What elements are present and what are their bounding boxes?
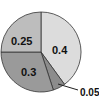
slice-label-0.4: 0.4 [52, 44, 68, 56]
slice-label-0.3: 0.3 [21, 66, 36, 78]
slice-label-0.25: 0.25 [11, 35, 32, 47]
pie-slices [1, 12, 81, 92]
slice-label-0.05: 0.05 [80, 87, 99, 98]
pie-chart: 0.4 0.05 0.3 0.25 [0, 0, 99, 104]
